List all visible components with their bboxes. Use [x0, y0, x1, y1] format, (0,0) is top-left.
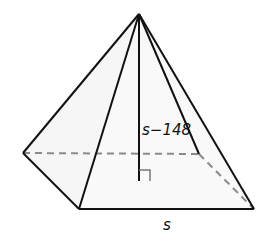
pyramid-diagram: s−148 s [0, 0, 262, 242]
height-label: s−148 [142, 121, 191, 139]
base-side-label: s [163, 216, 171, 234]
hidden-back-edge [23, 153, 199, 154]
